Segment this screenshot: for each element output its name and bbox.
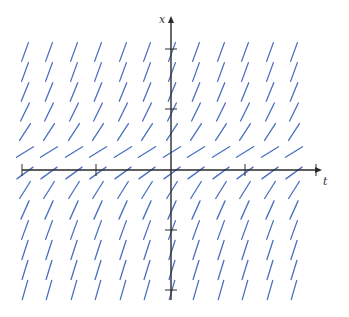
slope-segment xyxy=(71,221,78,240)
slope-segments xyxy=(17,43,303,300)
slope-segment xyxy=(218,260,224,279)
slope-segment xyxy=(120,240,126,259)
slope-segment xyxy=(66,147,83,158)
slope-segment xyxy=(120,63,127,82)
slope-segment xyxy=(144,240,150,259)
slope-segment xyxy=(22,221,29,240)
slope-segment xyxy=(192,83,199,102)
horizontal-axis-label: t xyxy=(323,175,327,188)
slope-segment xyxy=(144,63,151,82)
slope-segment xyxy=(120,280,126,299)
slope-segment xyxy=(143,83,150,102)
slope-segment xyxy=(265,182,276,199)
slope-segment xyxy=(240,124,251,141)
slope-segment xyxy=(291,260,297,279)
slope-segment xyxy=(142,124,153,141)
slope-segment xyxy=(139,147,156,158)
slope-segment xyxy=(290,201,298,219)
slope-segment xyxy=(286,147,303,158)
slope-segment xyxy=(115,147,132,158)
axes xyxy=(22,16,322,300)
slope-segment xyxy=(143,103,152,121)
slope-segment xyxy=(71,43,78,62)
slope-segment xyxy=(169,260,175,279)
slope-segment xyxy=(118,182,129,199)
slope-segment xyxy=(216,124,227,141)
slope-segment xyxy=(94,83,101,102)
slope-segment xyxy=(216,182,227,199)
slope-segment xyxy=(22,240,28,259)
slope-segment xyxy=(93,182,104,199)
slope-segment xyxy=(191,182,202,199)
slope-field-canvas xyxy=(0,0,349,317)
slope-segment xyxy=(46,221,53,240)
slope-segment xyxy=(193,43,200,62)
slope-segment xyxy=(45,83,52,102)
slope-segment xyxy=(291,63,298,82)
slope-segment xyxy=(144,221,151,240)
slope-segment xyxy=(240,182,251,199)
slope-segment xyxy=(119,103,128,121)
slope-segment xyxy=(90,167,106,179)
slope-segment xyxy=(142,182,153,199)
slope-segment xyxy=(242,240,248,259)
slope-segment xyxy=(193,260,199,279)
slope-segment xyxy=(120,221,127,240)
slope-segment xyxy=(17,147,34,158)
slope-segment xyxy=(144,260,150,279)
slope-segment xyxy=(169,43,176,62)
slope-segment xyxy=(241,103,250,121)
slope-segment xyxy=(17,167,33,179)
slope-segment xyxy=(218,63,225,82)
slope-segment xyxy=(69,182,80,199)
slope-segment xyxy=(262,167,278,179)
horizontal-arrow-icon xyxy=(315,167,322,173)
slope-segment xyxy=(144,43,151,62)
slope-segment xyxy=(218,280,224,299)
slope-segment xyxy=(237,147,254,158)
slope-segment xyxy=(120,260,126,279)
slope-segment xyxy=(169,63,176,82)
slope-segment xyxy=(241,201,249,219)
slope-segment xyxy=(217,201,225,219)
slope-segment xyxy=(21,83,28,102)
slope-segment xyxy=(218,221,225,240)
slope-segment xyxy=(95,43,102,62)
slope-segment xyxy=(46,260,52,279)
slope-segment xyxy=(267,260,273,279)
slope-segment xyxy=(218,43,225,62)
slope-segment xyxy=(22,43,29,62)
slope-segment xyxy=(66,167,82,179)
slope-segment xyxy=(20,182,31,199)
slope-segment xyxy=(267,63,274,82)
slope-segment xyxy=(193,240,199,259)
slope-segment xyxy=(267,240,273,259)
slope-segment xyxy=(291,43,298,62)
slope-segment xyxy=(46,280,52,299)
slope-segment xyxy=(164,167,180,179)
slope-segment xyxy=(71,280,77,299)
slope-segment xyxy=(193,221,200,240)
slope-segment xyxy=(95,280,101,299)
slope-segment xyxy=(213,147,230,158)
slope-segment xyxy=(286,167,302,179)
slope-segment xyxy=(266,201,274,219)
slope-segment xyxy=(44,182,55,199)
slope-segment xyxy=(115,167,131,179)
slope-segment xyxy=(262,147,279,158)
slope-segment xyxy=(46,43,53,62)
slope-segment xyxy=(168,83,175,102)
slope-segment xyxy=(95,221,102,240)
slope-segment xyxy=(242,280,248,299)
slope-segment xyxy=(241,83,248,102)
slope-segment xyxy=(168,201,176,219)
slope-segment xyxy=(41,167,57,179)
slope-segment xyxy=(21,201,29,219)
slope-segment xyxy=(242,221,249,240)
slope-segment xyxy=(94,103,103,121)
slope-segment xyxy=(22,63,29,82)
slope-segment xyxy=(167,182,178,199)
slope-segment xyxy=(70,103,79,121)
vertical-axis-label: x xyxy=(159,13,165,26)
slope-segment xyxy=(20,124,31,141)
